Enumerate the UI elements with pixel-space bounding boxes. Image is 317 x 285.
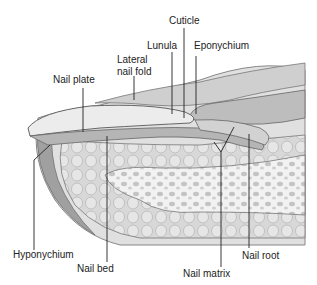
label-nail-bed: Nail bed: [77, 263, 114, 274]
label-lateral-nail-fold-1: Lateral: [117, 54, 148, 65]
label-lateral-nail-fold-2: nail fold: [117, 66, 151, 77]
label-lunula: Lunula: [147, 40, 177, 51]
label-nail-matrix: Nail matrix: [183, 268, 230, 279]
label-eponychium: Eponychium: [194, 40, 249, 51]
label-cuticle: Cuticle: [169, 15, 200, 26]
label-hyponychium: Hyponychium: [13, 249, 74, 260]
label-nail-plate: Nail plate: [53, 74, 95, 85]
label-nail-root: Nail root: [242, 250, 279, 261]
